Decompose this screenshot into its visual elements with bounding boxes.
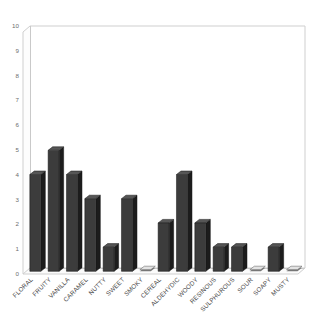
y-tick-label: 2 bbox=[16, 220, 20, 227]
x-tick-label: SULPHUROUS bbox=[199, 276, 236, 313]
bar bbox=[231, 244, 247, 272]
bar bbox=[195, 219, 211, 271]
bar-side-face bbox=[59, 147, 64, 271]
bar-front-face bbox=[85, 199, 96, 272]
bar-front-face bbox=[48, 150, 59, 271]
chart-canvas: 012345678910 FLORALFRUITYVANILLACARAMELN… bbox=[0, 0, 323, 330]
y-tick-label: 0 bbox=[16, 270, 20, 277]
bar bbox=[30, 171, 46, 271]
y-tick-label: 9 bbox=[16, 47, 20, 54]
y-tick-label: 5 bbox=[16, 146, 20, 153]
bar-side-face bbox=[169, 219, 174, 271]
bar-front-face bbox=[231, 247, 242, 271]
x-tick-label: SWEET bbox=[104, 276, 125, 297]
bar bbox=[213, 244, 229, 272]
y-tick-label: 8 bbox=[16, 72, 20, 79]
y-tick-label: 4 bbox=[16, 171, 20, 178]
bar-side-face bbox=[187, 171, 192, 271]
x-tick-label: FLORAL bbox=[11, 276, 34, 299]
x-tick-label: SOAPY bbox=[252, 275, 273, 296]
bar bbox=[121, 195, 137, 271]
bar-front-face bbox=[158, 223, 169, 271]
bar-front-face bbox=[213, 247, 224, 271]
bar bbox=[48, 147, 64, 271]
bar-chart: 012345678910 FLORALFRUITYVANILLACARAMELN… bbox=[0, 0, 323, 330]
bar-side-face bbox=[132, 195, 137, 271]
y-tick-label: 6 bbox=[16, 121, 20, 128]
bar bbox=[268, 244, 284, 272]
bar-side-face bbox=[279, 244, 284, 272]
bar-front-face bbox=[30, 175, 41, 272]
y-axis-ticks: 012345678910 bbox=[12, 22, 19, 277]
bar-side-face bbox=[41, 171, 46, 271]
bar bbox=[66, 171, 82, 271]
x-axis-category-labels: FLORALFRUITYVANILLACARAMELNUTTYSWEETSMOK… bbox=[11, 275, 291, 312]
bar-side-face bbox=[206, 219, 211, 271]
bar-side-face bbox=[77, 171, 82, 271]
y-tick-label: 10 bbox=[12, 22, 19, 29]
bar-front-face bbox=[121, 199, 132, 272]
bar-front-face bbox=[176, 175, 187, 272]
bar-side-face bbox=[224, 244, 229, 272]
bar bbox=[85, 195, 101, 271]
bar bbox=[158, 219, 174, 271]
bar-front-face bbox=[268, 247, 279, 271]
bar-side-face bbox=[242, 244, 247, 272]
bar-front-face bbox=[103, 247, 114, 271]
bar bbox=[103, 244, 119, 272]
y-tick-label: 7 bbox=[16, 96, 20, 103]
x-tick-label: MUSTY bbox=[270, 275, 292, 297]
bar-side-face bbox=[114, 244, 119, 272]
y-tick-label: 3 bbox=[16, 196, 20, 203]
bar-front-face bbox=[66, 175, 77, 272]
y-tick-label: 1 bbox=[16, 245, 20, 252]
bar bbox=[176, 171, 192, 271]
bar-side-face bbox=[96, 195, 101, 271]
bar-front-face bbox=[195, 223, 206, 271]
